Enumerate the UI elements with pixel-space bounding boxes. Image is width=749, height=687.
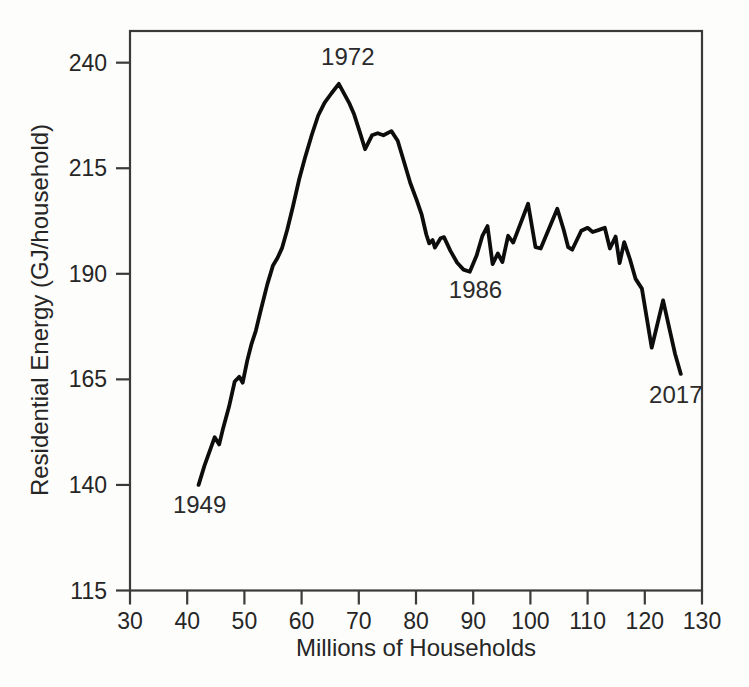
residential-energy-chart-figure: 3040506070809010011012013011514016519021… xyxy=(0,0,749,687)
year-annotations: 1949197219862017 xyxy=(173,43,703,518)
x-axis-tick-label: 70 xyxy=(346,608,372,634)
x-axis-tick-label: 40 xyxy=(174,608,200,634)
annotation-1949: 1949 xyxy=(173,491,226,518)
x-axis-tick-label: 90 xyxy=(460,608,486,634)
y-axis-tick-label: 165 xyxy=(69,366,107,392)
y-axis-tick-label: 240 xyxy=(69,50,107,76)
data-series xyxy=(199,84,681,485)
x-axis-tick-label: 110 xyxy=(569,608,606,634)
annotation-1972: 1972 xyxy=(321,43,374,70)
y-axis-tick-label: 115 xyxy=(70,578,107,604)
x-axis-tick-label: 50 xyxy=(232,608,258,634)
data-line xyxy=(199,84,681,485)
line-chart: 3040506070809010011012013011514016519021… xyxy=(0,0,749,687)
y-axis-tick-label: 190 xyxy=(69,261,107,287)
x-axis-tick-label: 100 xyxy=(511,608,549,634)
x-axis-tick-label: 60 xyxy=(289,608,315,634)
x-axis-tick-label: 130 xyxy=(683,608,721,634)
y-axis-title: Residential Energy (GJ/household) xyxy=(26,124,53,496)
x-axis-tick-label: 80 xyxy=(403,608,429,634)
x-axis-tick-label: 30 xyxy=(117,608,143,634)
annotation-1986: 1986 xyxy=(449,276,502,303)
x-axis-title: Millions of Households xyxy=(296,634,536,661)
x-axis-tick-label: 120 xyxy=(626,608,664,634)
axis-ticks xyxy=(116,63,702,605)
y-axis-tick-label: 140 xyxy=(69,472,107,498)
y-axis-tick-label: 215 xyxy=(69,155,107,181)
annotation-2017: 2017 xyxy=(649,381,702,408)
